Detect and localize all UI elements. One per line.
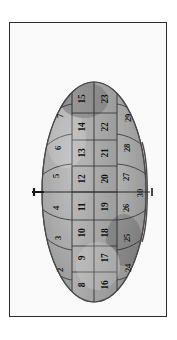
cell-label-15: 15 — [78, 94, 88, 103]
cell-label-25: 25 — [123, 234, 132, 242]
cell-label-17: 17 — [101, 253, 111, 262]
cell-label-18: 18 — [101, 228, 111, 237]
cell-label-26: 26 — [122, 204, 131, 212]
figure-page-border: 7 6 5 4 3 2 15 14 13 12 11 10 9 8 23 22 … — [9, 22, 167, 317]
cell-label-21: 21 — [101, 148, 111, 157]
cell-label-5: 5 — [52, 174, 61, 178]
cell-label-7: 7 — [56, 114, 65, 118]
cell-label-10: 10 — [78, 228, 88, 237]
cell-label-16: 16 — [101, 280, 111, 289]
cell-label-8: 8 — [78, 283, 88, 288]
cell-label-12: 12 — [78, 174, 88, 183]
cell-label-4: 4 — [52, 206, 61, 210]
cell-label-9: 9 — [78, 256, 88, 261]
cell-label-14: 14 — [78, 122, 88, 131]
cell-label-19: 19 — [101, 202, 111, 211]
cell-label-23: 23 — [101, 94, 111, 103]
cell-label-30: 30 — [136, 189, 145, 197]
cell-label-11: 11 — [78, 203, 88, 212]
ellipse-diagram: 7 6 5 4 3 2 15 14 13 12 11 10 9 8 23 22 … — [32, 80, 156, 304]
cell-label-3: 3 — [54, 236, 63, 240]
cell-label-2: 2 — [56, 268, 65, 272]
figure-root: 7 6 5 4 3 2 15 14 13 12 11 10 9 8 23 22 … — [0, 0, 177, 340]
cell-label-6: 6 — [54, 146, 63, 150]
cell-label-22: 22 — [101, 122, 111, 131]
cell-label-20: 20 — [101, 174, 111, 183]
cell-label-13: 13 — [78, 148, 88, 157]
cell-label-29: 29 — [124, 114, 133, 122]
cell-label-27: 27 — [122, 173, 131, 181]
cell-label-24: 24 — [124, 264, 133, 272]
cell-label-28: 28 — [123, 144, 132, 152]
